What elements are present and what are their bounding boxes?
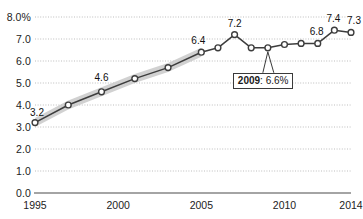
callout-leader-line <box>263 52 274 73</box>
y-tick-label: 7.0 <box>16 33 31 45</box>
x-tick-label: 2010 <box>273 199 296 211</box>
point-value-label: 4.6 <box>95 71 109 82</box>
y-tick-label: 5.0 <box>16 77 31 89</box>
point-value-label: 7.3 <box>347 15 361 26</box>
y-tick-label: 1.0 <box>16 165 31 177</box>
x-axis-tick-labels: 19952000200520102014 <box>0 195 356 219</box>
point-value-label: 6.8 <box>310 26 324 37</box>
confidence-band <box>35 48 201 127</box>
y-tick-label: 6.0 <box>16 55 31 67</box>
callout-value: : 6.6% <box>260 75 288 86</box>
callout-year: 2009 <box>238 75 260 86</box>
x-tick-label: 1995 <box>23 199 46 211</box>
y-tick-label: 2.0 <box>16 143 31 155</box>
y-tick-label: 8.0% <box>7 11 31 23</box>
x-tick-label: 2005 <box>190 199 213 211</box>
callout-2009: 2009: 6.6% <box>233 73 294 90</box>
y-axis-tick-labels: 0.01.02.03.04.05.06.07.08.0% <box>0 0 31 219</box>
y-tick-label: 4.0 <box>16 99 31 111</box>
x-tick-label: 2000 <box>106 199 129 211</box>
x-tick-label: 2014 <box>339 199 362 211</box>
point-value-label: 3.2 <box>30 106 44 117</box>
point-value-label: 6.4 <box>191 35 205 46</box>
point-value-label: 7.4 <box>326 13 340 24</box>
y-tick-label: 3.0 <box>16 121 31 133</box>
point-value-label: 7.2 <box>228 17 242 28</box>
